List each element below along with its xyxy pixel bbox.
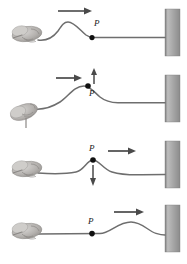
panel-2: P xyxy=(0,66,187,132)
arrow-right-icon xyxy=(56,75,82,82)
panel-4: P xyxy=(0,198,187,264)
arrow-right-icon xyxy=(108,148,136,155)
point-p-label: P xyxy=(89,89,95,98)
rope xyxy=(34,86,165,109)
arrow-down-icon xyxy=(90,165,96,186)
point-p xyxy=(89,35,94,40)
hand-icon xyxy=(8,100,39,128)
rope xyxy=(38,22,165,40)
panel-1: P xyxy=(0,0,187,66)
point-p xyxy=(90,157,96,163)
arrow-right-icon xyxy=(58,8,92,15)
point-p xyxy=(89,231,95,237)
wall xyxy=(165,141,180,188)
wall xyxy=(165,9,180,56)
arrow-right-icon xyxy=(114,209,144,216)
hand-icon xyxy=(11,221,43,240)
panel-3: P xyxy=(0,132,187,198)
arrow-up-icon xyxy=(91,68,97,84)
point-p-label: P xyxy=(89,144,95,153)
point-p-label: P xyxy=(94,19,100,28)
rope xyxy=(38,160,165,175)
wall xyxy=(165,205,180,252)
rope xyxy=(38,222,165,235)
hand-icon xyxy=(11,159,43,178)
wall xyxy=(165,75,180,122)
wave-pulse-figure: P xyxy=(0,0,187,264)
point-p-label: P xyxy=(88,217,94,226)
